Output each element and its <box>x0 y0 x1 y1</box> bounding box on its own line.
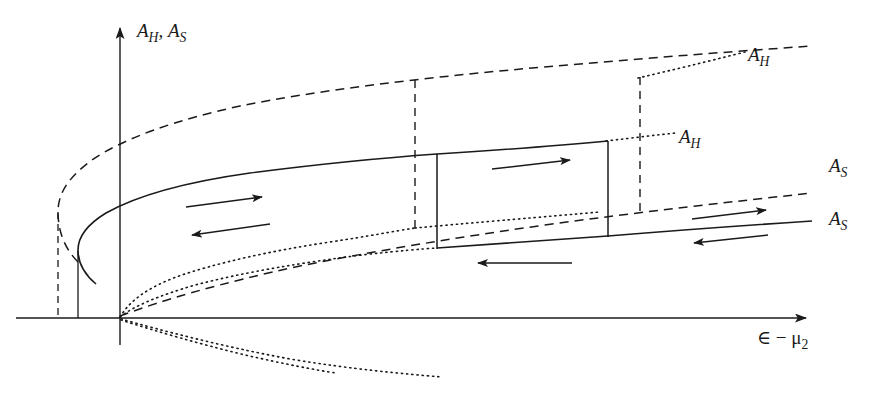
arrow-loop-top-forward-icon <box>492 160 570 169</box>
curve-label-ah-upper: AH <box>748 44 769 70</box>
direction-arrows-group <box>186 160 768 263</box>
curve-label-as-lower: AS <box>829 208 847 234</box>
arrow-right-forward-icon <box>692 210 766 219</box>
y-axis-label-as-sub: S <box>180 30 187 45</box>
curve-as-middle-dashed <box>120 193 812 316</box>
curve-ah-dotted-to-upper-label <box>638 52 745 78</box>
curve-label-as-upper: AS <box>829 155 847 181</box>
curve-label-as-upper-main: A <box>829 155 841 176</box>
y-axis-label-ah-sub: H <box>149 30 159 45</box>
y-axis-label-ah-main: A <box>137 20 149 41</box>
curve-as-dotted-unstable-origin <box>120 248 437 317</box>
curve-label-ah-upper-sub: H <box>760 54 770 69</box>
arrow-left-backward-icon <box>192 224 270 235</box>
hysteresis-jump-lines <box>415 77 640 249</box>
y-axis-label-as-main: A <box>168 20 180 41</box>
arrow-right-backward-icon <box>694 235 768 243</box>
y-axis-label: AH, AS <box>137 20 186 46</box>
curve-label-ah-middle: AH <box>679 126 700 152</box>
y-axis-label-comma: , <box>158 20 168 41</box>
curve-ah-dotted-to-middle-label <box>606 133 676 141</box>
x-axis-label-symbol: ∈ − μ <box>757 327 801 348</box>
curve-dotted-descending-long <box>121 319 442 377</box>
x-axis-label: ∈ − μ2 <box>757 326 808 353</box>
curve-label-as-upper-sub: S <box>841 165 848 180</box>
x-axis-label-sub: 2 <box>801 337 808 352</box>
curve-label-ah-upper-main: A <box>748 44 760 65</box>
turning-point-markers <box>58 212 78 318</box>
curve-label-as-lower-sub: S <box>841 218 848 233</box>
curve-as-lower-solid <box>437 221 812 248</box>
axes-group <box>16 28 806 345</box>
curve-label-as-lower-main: A <box>829 208 841 229</box>
curve-ah-dotted-midlevel <box>415 212 600 228</box>
bifurcation-diagram-figure: AH, AS ∈ − μ2 AH AH AS AS <box>0 0 892 401</box>
curve-label-ah-middle-main: A <box>679 126 691 147</box>
arrow-left-forward-icon <box>186 197 262 207</box>
curve-label-ah-middle-sub: H <box>691 136 701 151</box>
